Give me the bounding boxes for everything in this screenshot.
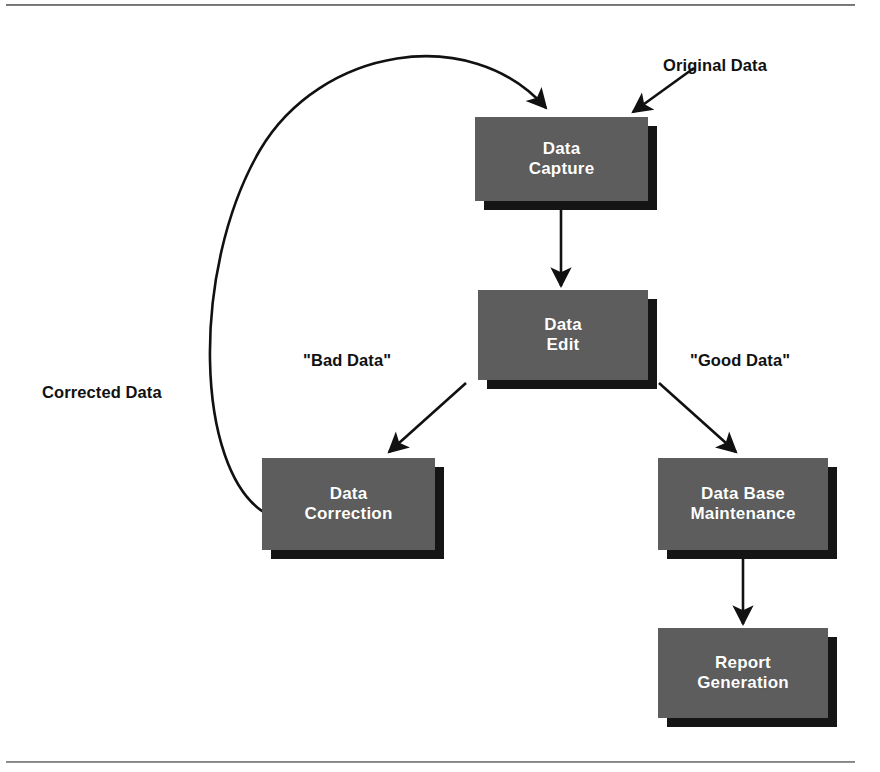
node-data-correction[interactable]: Data Correction — [262, 458, 435, 550]
label-bad-data: "Bad Data" — [303, 351, 391, 370]
label-good-data: "Good Data" — [690, 351, 790, 370]
label-corrected-data: Corrected Data — [42, 383, 162, 402]
node-label: Data Base Maintenance — [690, 484, 795, 523]
edge-edit-to-correction — [389, 383, 466, 452]
node-label: Report Generation — [697, 653, 789, 692]
node-label: Data Correction — [305, 484, 393, 523]
node-label: Data Edit — [544, 315, 582, 354]
node-report-generation[interactable]: Report Generation — [658, 628, 828, 718]
flowchart-figure: Data Capture Data Edit Data Correction D… — [0, 0, 880, 772]
edge-edit-to-maintenance — [659, 383, 736, 452]
node-data-base-maintenance[interactable]: Data Base Maintenance — [658, 458, 828, 550]
label-original-data: Original Data — [663, 56, 767, 75]
node-data-capture[interactable]: Data Capture — [475, 117, 648, 201]
node-label: Data Capture — [529, 139, 595, 178]
node-data-edit[interactable]: Data Edit — [478, 290, 648, 380]
